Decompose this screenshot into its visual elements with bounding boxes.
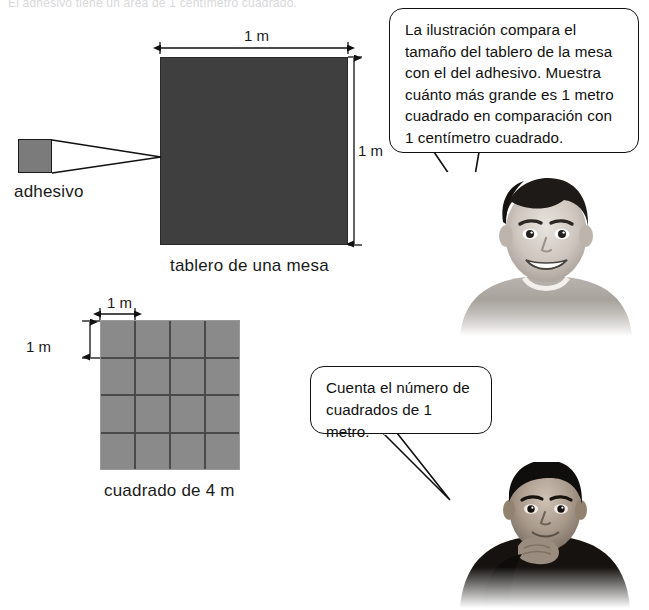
grid-cell — [206, 434, 239, 470]
bubble-1-line: tamaño del tablero de la mesa — [405, 41, 624, 63]
illustration-page: El adhesivo tiene un área de 1 centímetr… — [0, 0, 649, 610]
grid-cell — [206, 321, 239, 357]
bubble-2-line: cuadrados de 1 metro. — [326, 399, 477, 443]
meter-grid — [100, 320, 240, 470]
sticker-caption: adhesivo — [14, 182, 84, 202]
speech-bubble-lower: Cuenta el número de cuadrados de 1 metro… — [310, 366, 492, 434]
grid-cell — [171, 321, 204, 357]
grid-cell — [101, 396, 134, 432]
grid-cell — [171, 434, 204, 470]
speech-bubble-upper: La ilustración compara el tamaño del tab… — [389, 8, 639, 153]
tabletop-caption: tablero de una mesa — [170, 256, 329, 276]
grid-cell — [101, 434, 134, 470]
grid-cell — [171, 359, 204, 395]
cropped-header-text: El adhesivo tiene un área de 1 centímetr… — [8, 0, 428, 9]
bubble-1-line: cuánto más grande es 1 metro — [405, 84, 624, 106]
bubble-2-line: Cuenta el número de — [326, 377, 477, 399]
grid-cell-height-label: 1 m — [26, 338, 51, 355]
grid-cell — [101, 359, 134, 395]
photo-boy-smiling — [446, 172, 646, 336]
tabletop-square — [160, 57, 348, 245]
bubble-1-line: La ilustración compara el — [405, 19, 624, 41]
grid-cell — [101, 321, 134, 357]
bubble-1-line: con el del adhesivo. Muestra — [405, 62, 624, 84]
tabletop-width-label: 1 m — [244, 27, 269, 44]
sticker-square — [18, 139, 52, 173]
bubble-1-line: 1 centímetro cuadrado. — [405, 127, 624, 149]
magnification-leader-lines — [52, 140, 161, 173]
grid-cell — [136, 321, 169, 357]
bubble-2-tail — [383, 433, 450, 500]
grid-cell — [136, 434, 169, 470]
bubble-1-line: cuadrado en comparación con — [405, 105, 624, 127]
grid-cell-width-label: 1 m — [107, 294, 132, 311]
grid-cell — [136, 396, 169, 432]
photo-boy-chin-on-hand — [452, 462, 638, 608]
grid-cell-height-dimension — [82, 321, 100, 358]
grid-caption: cuadrado de 4 m — [104, 481, 235, 501]
grid-cell — [206, 396, 239, 432]
grid-cell — [136, 359, 169, 395]
tabletop-height-label: 1 m — [358, 142, 383, 159]
grid-cell — [171, 396, 204, 432]
grid-cell — [206, 359, 239, 395]
